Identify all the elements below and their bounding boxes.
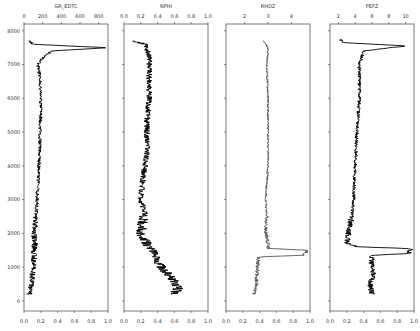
depth-tick-label: 6000: [7, 95, 20, 101]
top-tick-label: 0.2: [137, 13, 145, 19]
top-tick-label: 1.0: [204, 13, 212, 19]
bottom-tick-label: 0.8: [289, 318, 297, 324]
bottom-tick-label: 0.4: [154, 318, 162, 324]
track-gr-edtc: GR_EDTC02004006008000.00.20.40.60.81.001…: [7, 3, 112, 324]
bottom-tick-label: 0.6: [170, 318, 178, 324]
bottom-tick-label: 0.4: [360, 318, 368, 324]
track-title: NPHI: [160, 3, 172, 9]
depth-tick-label: 7000: [7, 61, 20, 67]
depth-tick-label: 2000: [7, 230, 20, 236]
track-rhoz: RHOZ2340.00.20.40.60.81.0: [222, 3, 314, 324]
depth-tick-label: 1000: [7, 264, 20, 270]
bottom-tick-label: 0.6: [272, 318, 280, 324]
track-title: RHOZ: [261, 3, 276, 9]
bottom-tick-label: 1.0: [410, 318, 418, 324]
depth-tick-label: 4000: [7, 163, 20, 169]
log-curve: [340, 39, 413, 294]
top-tick-label: 2: [243, 13, 246, 19]
depth-tick-label: 3000: [7, 196, 20, 202]
top-tick-label: 4: [354, 13, 357, 19]
bottom-tick-label: 0.0: [326, 318, 334, 324]
bottom-tick-label: 0.2: [343, 318, 351, 324]
top-tick-label: 800: [94, 13, 104, 19]
top-tick-label: 3: [266, 13, 269, 19]
bottom-tick-label: 0.6: [376, 318, 384, 324]
bottom-tick-label: 0.8: [87, 318, 95, 324]
top-tick-label: 0.4: [154, 13, 162, 19]
top-tick-label: 600: [75, 13, 85, 19]
bottom-tick-label: 1.0: [306, 318, 314, 324]
depth-tick-label: 8000: [7, 28, 20, 34]
log-curve: [253, 41, 308, 294]
bottom-tick-label: 0.4: [256, 318, 264, 324]
bottom-tick-label: 0.0: [20, 318, 28, 324]
top-tick-label: 6: [370, 13, 373, 19]
bottom-tick-label: 0.4: [54, 318, 62, 324]
track-nphi: NPHI0.00.20.40.60.81.00.00.20.40.60.81.0: [120, 3, 212, 324]
top-tick-label: 0.8: [187, 13, 195, 19]
top-tick-label: 200: [38, 13, 48, 19]
bottom-tick-label: 0.2: [37, 318, 45, 324]
bottom-tick-label: 0.2: [239, 318, 247, 324]
track-title: GR_EDTC: [54, 3, 78, 10]
top-tick-label: 4: [290, 13, 293, 19]
top-tick-label: 400: [57, 13, 67, 19]
bottom-tick-label: 0.2: [137, 318, 145, 324]
bottom-tick-label: 0.0: [222, 318, 230, 324]
log-curve: [27, 41, 106, 294]
top-tick-label: 10: [402, 13, 408, 19]
bottom-tick-label: 0.8: [393, 318, 401, 324]
well-log-figure: GR_EDTC02004006008000.00.20.40.60.81.001…: [0, 0, 420, 331]
depth-tick-label: 0: [17, 298, 20, 304]
top-tick-label: 0.0: [120, 13, 128, 19]
track-frame: [124, 24, 208, 311]
top-tick-label: 2: [337, 13, 340, 19]
top-tick-label: 8: [387, 13, 390, 19]
top-tick-label: 0.6: [170, 13, 178, 19]
track-title: PEFZ: [366, 3, 379, 9]
bottom-tick-label: 0.8: [187, 318, 195, 324]
bottom-tick-label: 0.0: [120, 318, 128, 324]
top-tick-label: 0: [22, 13, 25, 19]
bottom-tick-label: 0.6: [70, 318, 78, 324]
bottom-tick-label: 1.0: [104, 318, 112, 324]
track-pefz: PEFZ2468100.00.20.40.60.81.0: [326, 3, 418, 324]
log-curve: [133, 41, 183, 294]
depth-tick-label: 5000: [7, 129, 20, 135]
bottom-tick-label: 1.0: [204, 318, 212, 324]
